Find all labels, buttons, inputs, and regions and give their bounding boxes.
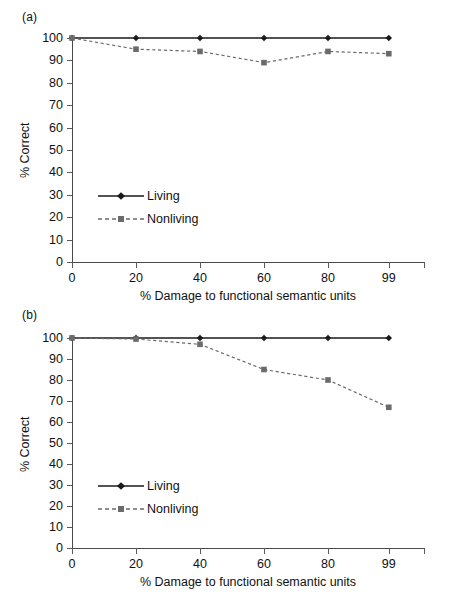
x-tick [424,262,425,268]
data-point-nonliving [69,335,75,341]
series-line-nonliving [72,38,389,63]
x-tick [264,548,265,554]
data-point-nonliving [386,405,392,411]
y-tick-label: 50 [49,143,63,157]
data-point-living [133,35,139,41]
legend-item-living: Living [98,478,198,494]
y-tick-label: 80 [49,76,63,90]
x-tick [328,262,329,268]
x-tick [424,548,425,554]
panel-b-plot-area: 0102030405060708090100 02040608099 % Dam… [72,338,424,548]
data-point-nonliving [133,336,139,342]
y-tick-label: 40 [49,165,63,179]
y-tick-label: 100 [42,31,63,45]
x-tick-label: 80 [321,557,335,571]
data-point-nonliving [386,51,392,57]
x-tick-label: 40 [193,557,207,571]
data-point-living [386,35,392,41]
panel-a-legend: Living Nonliving [98,188,198,234]
x-tick [136,262,137,268]
y-tick-label: 80 [49,373,63,387]
panel-b-x-axis [72,548,424,549]
data-point-nonliving [261,367,267,373]
x-tick [136,548,137,554]
x-tick-label: 99 [382,557,396,571]
panel-b-y-axis-title: % Correct [18,416,32,472]
x-tick [72,548,73,554]
y-tick-label: 60 [49,121,63,135]
data-point-nonliving [261,60,267,66]
y-tick-label: 10 [49,520,63,534]
legend-label-nonliving: Nonliving [147,212,198,226]
y-tick-label: 70 [49,394,63,408]
x-tick [200,548,201,554]
data-point-nonliving [197,342,203,348]
data-point-nonliving [197,49,203,55]
legend-key-living-icon [98,480,144,492]
data-point-living [325,335,331,341]
panel-a-plot-area: 0102030405060708090100 02040608099 % Dam… [72,38,424,262]
x-tick [200,262,201,268]
legend-label-living: Living [147,189,180,203]
x-tick [72,262,73,268]
x-tick-label: 20 [129,557,143,571]
legend-key-nonliving-icon [98,213,144,225]
panel-b-legend: Living Nonliving [98,478,198,524]
x-tick [328,548,329,554]
x-tick [389,262,390,268]
panel-b-label: (b) [22,308,37,322]
data-point-nonliving [325,377,331,383]
data-point-living [197,35,203,41]
data-point-nonliving [325,49,331,55]
panel-a-label: (a) [22,10,37,24]
data-point-living [325,35,331,41]
chart-panel-b: (b) % Correct 0102030405060708090100 020… [0,300,460,605]
y-tick-label: 50 [49,436,63,450]
legend-item-nonliving: Nonliving [98,211,198,227]
chart-panel-a: (a) % Correct 0102030405060708090100 020… [0,0,460,305]
y-tick-label: 30 [49,478,63,492]
data-point-living [197,335,203,341]
y-tick-label: 20 [49,210,63,224]
x-tick-label: 0 [69,271,76,285]
y-tick-label: 10 [49,233,63,247]
y-tick-label: 40 [49,457,63,471]
x-tick-label: 40 [193,271,207,285]
x-tick-label: 0 [69,557,76,571]
y-tick-label: 30 [49,188,63,202]
x-tick-label: 99 [382,271,396,285]
y-tick-label: 0 [56,541,63,555]
y-tick-label: 100 [42,331,63,345]
x-tick [264,262,265,268]
legend-item-living: Living [98,188,198,204]
x-tick-label: 80 [321,271,335,285]
series-line-nonliving [72,338,389,407]
panel-b-x-axis-title: % Damage to functional semantic units [72,575,424,589]
legend-key-living-icon [98,190,144,202]
data-point-living [261,335,267,341]
y-tick-label: 20 [49,499,63,513]
data-point-living [386,335,392,341]
y-tick-label: 90 [49,352,63,366]
legend-item-nonliving: Nonliving [98,501,198,517]
data-point-nonliving [69,35,75,41]
legend-label-living: Living [147,479,180,493]
x-tick [389,548,390,554]
x-tick-label: 20 [129,271,143,285]
y-tick-label: 70 [49,98,63,112]
y-tick-label: 0 [56,255,63,269]
data-point-nonliving [133,46,139,52]
x-tick-label: 60 [257,557,271,571]
data-point-living [261,35,267,41]
x-tick-label: 60 [257,271,271,285]
legend-key-nonliving-icon [98,503,144,515]
legend-label-nonliving: Nonliving [147,502,198,516]
panel-a-y-axis-title: % Correct [18,122,32,178]
y-tick-label: 90 [49,53,63,67]
y-tick-label: 60 [49,415,63,429]
panel-a-x-axis [72,262,424,263]
